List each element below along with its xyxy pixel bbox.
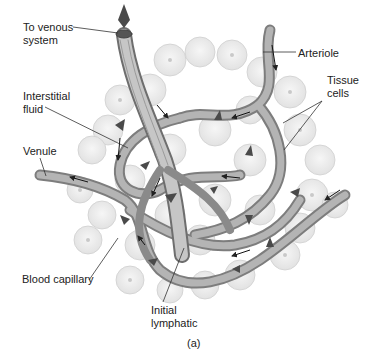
- label-blood-capillary: Blood capillary: [22, 273, 94, 286]
- label-to-venous-system: To venous system: [23, 21, 73, 47]
- label-arteriole: Arteriole: [298, 47, 339, 60]
- label-tissue-cells: Tissue cells: [327, 74, 359, 100]
- panel-label: (a): [187, 337, 200, 350]
- venous-outflow-arrow: [118, 4, 130, 28]
- tissue-cells: [67, 37, 348, 303]
- label-initial-lymphatic: Initial lymphatic: [151, 304, 197, 330]
- label-venule: Venule: [23, 145, 57, 158]
- label-interstitial-fluid: Interstitial fluid: [23, 90, 70, 116]
- lymphatic-capillary-diagram: To venous system Interstitial fluid Venu…: [0, 0, 374, 352]
